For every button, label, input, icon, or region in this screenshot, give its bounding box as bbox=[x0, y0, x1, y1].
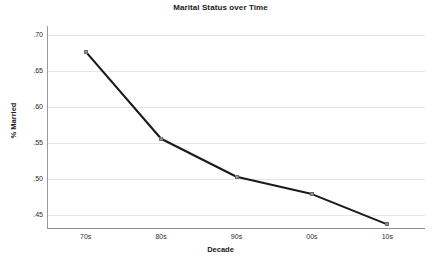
y-axis-tick-label: .65 bbox=[0, 67, 43, 74]
x-axis-line bbox=[48, 228, 425, 229]
y-axis-tick-label: .70 bbox=[0, 31, 43, 38]
data-point-90s bbox=[235, 175, 239, 179]
y-axis-line bbox=[47, 26, 48, 229]
gridline-50 bbox=[48, 179, 425, 180]
gridline-65 bbox=[48, 71, 425, 72]
chart-title: Marital Status over Time bbox=[0, 3, 441, 12]
gridline-70 bbox=[48, 35, 425, 36]
x-axis-title: Decade bbox=[0, 245, 441, 254]
gridline-45 bbox=[48, 215, 425, 216]
x-axis-tick-label-90s: 90s bbox=[207, 233, 267, 240]
y-axis-tick-label: .45 bbox=[0, 211, 43, 218]
y-axis-title: % Married bbox=[9, 81, 18, 161]
x-axis-tick-label-10s: 10s bbox=[357, 233, 417, 240]
x-axis-tick-label-80s: 80s bbox=[131, 233, 191, 240]
chart-container: Marital Status over Time .70.65.60.55.50… bbox=[0, 0, 441, 265]
series-line bbox=[0, 0, 441, 265]
data-point-70s bbox=[84, 50, 88, 54]
data-point-80s bbox=[159, 137, 163, 141]
gridline-60 bbox=[48, 107, 425, 108]
x-axis-tick-label-70s: 70s bbox=[56, 233, 116, 240]
y-axis-tick-label: .55 bbox=[0, 139, 43, 146]
data-point-10s bbox=[385, 222, 389, 226]
y-axis-tick-label: .50 bbox=[0, 175, 43, 182]
y-axis-tick-label: .60 bbox=[0, 103, 43, 110]
gridline-55 bbox=[48, 143, 425, 144]
data-point-00s bbox=[310, 192, 314, 196]
x-axis-tick-label-00s: 00s bbox=[282, 233, 342, 240]
